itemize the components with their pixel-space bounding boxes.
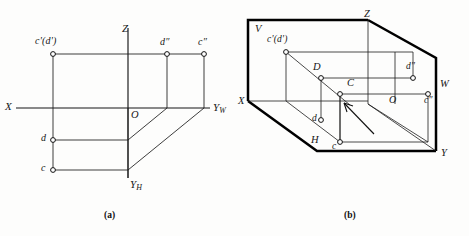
label-b-axis-x: X [238, 96, 245, 107]
caption-panel-b: (b) [344, 210, 356, 220]
marker-d-side [165, 52, 170, 57]
pointer-arrow [344, 103, 374, 134]
marker-c-top [51, 168, 56, 173]
marker-b-cd-front [284, 50, 289, 55]
marker-d-top [51, 138, 56, 143]
label-a-c-side: c″ [198, 37, 207, 47]
figure-canvas: c'(d') d″ c″ d c X Z O YW YH (a) [0, 0, 469, 236]
label-b-plane-v: V [255, 24, 262, 35]
label-b-axis-z: Z [364, 9, 370, 20]
label-a-axis-x: X [5, 101, 12, 112]
h-rect-right-diag [368, 104, 428, 142]
label-b-d-side: d″ [406, 62, 415, 72]
label-b-plane-h: H [311, 135, 319, 146]
label-a-axis-z: Z [122, 23, 128, 34]
label-a-axis-yh-sub: H [136, 183, 142, 192]
label-b-c-top: c [332, 142, 336, 152]
label-b-d-top: d [312, 114, 317, 124]
marker-c-side [202, 52, 207, 57]
label-b-cd-front: c'(d') [267, 35, 288, 45]
label-a-cd-front: c'(d') [35, 36, 57, 46]
marker-cd-front [51, 52, 56, 57]
marker-b-c-top [338, 140, 343, 145]
label-a-origin: O [131, 110, 139, 121]
label-b-axis-y: Y [441, 148, 447, 159]
label-a-axis-yw-sub: W [219, 106, 226, 115]
label-a-c-top: c [41, 163, 46, 173]
axis-oy [368, 104, 436, 151]
label-a-axis-yw: YW [213, 102, 226, 115]
marker-b-d-top [319, 118, 324, 123]
label-b-D: D [313, 62, 321, 73]
label-b-plane-w: W [440, 79, 449, 90]
plane-v-outline [248, 20, 368, 101]
marker-b-d-side [411, 76, 416, 81]
label-a-d-side: d″ [160, 37, 170, 47]
label-b-c-side: c″ [424, 96, 433, 106]
label-a-axis-yh: YH [130, 179, 142, 192]
label-a-d-top: d [41, 133, 46, 143]
plane-w-outline [368, 20, 436, 151]
caption-panel-a: (a) [104, 210, 115, 220]
label-b-origin: O [389, 95, 396, 105]
label-b-C: C [347, 78, 354, 89]
mitre-line-c [128, 108, 204, 170]
marker-b-C [338, 92, 343, 97]
marker-b-D [319, 76, 324, 81]
